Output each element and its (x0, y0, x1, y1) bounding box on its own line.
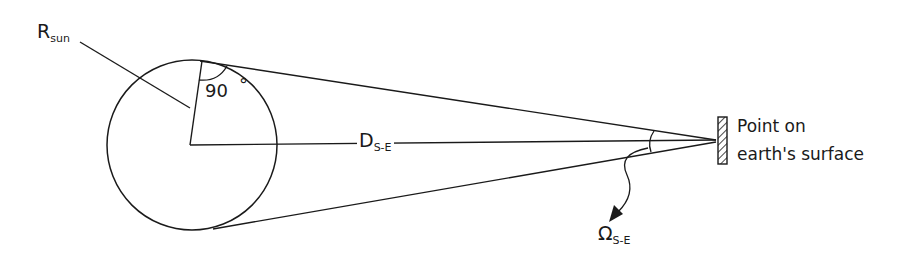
radius-line (190, 61, 202, 145)
distance-label-sub: S-E (374, 141, 392, 154)
right-angle-arc (199, 66, 227, 80)
solid-angle-arc (650, 131, 654, 152)
distance-label: DS-E (357, 131, 394, 150)
radius-label-main: R (37, 20, 50, 42)
angle-label: 90 (205, 82, 228, 100)
lower-tangent-line (213, 142, 716, 229)
arrowhead-icon (609, 205, 623, 222)
upper-tangent-line (200, 61, 716, 140)
point-label-line2: earth's surface (737, 146, 864, 163)
radius-label: Rsun (37, 22, 70, 41)
degree-symbol: ° (239, 76, 248, 94)
radius-leader-line (80, 42, 190, 108)
solid-angle-label: ΩS-E (598, 224, 630, 243)
earth-surface-point (718, 117, 727, 164)
point-label-line1: Point on (737, 118, 806, 135)
distance-line (190, 140, 716, 145)
solid-angle-label-main: Ω (598, 222, 613, 244)
solid-angle-label-sub: S-E (613, 234, 631, 247)
radius-label-sub: sun (50, 32, 70, 45)
distance-label-main: D (359, 129, 374, 151)
